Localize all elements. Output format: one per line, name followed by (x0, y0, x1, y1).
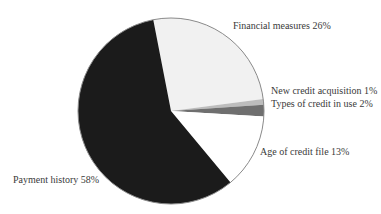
pie-slice-financial-measures (153, 18, 263, 111)
label-new-credit-acquisition: New credit acquisition 1% (271, 85, 377, 96)
label-payment-history: Payment history 58% (13, 174, 99, 185)
label-types-of-credit: Types of credit in use 2% (271, 98, 373, 109)
label-age-of-credit-file: Age of credit file 13% (260, 146, 349, 157)
label-financial-measures: Financial measures 26% (233, 20, 331, 31)
